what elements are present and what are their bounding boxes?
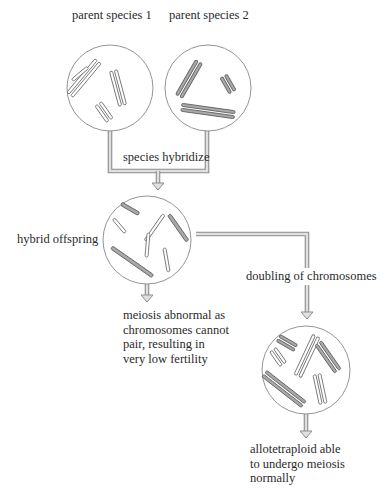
sterile-line-3: pair, resulting in	[123, 337, 229, 352]
arrow-down-icon	[152, 183, 164, 190]
hybrid-offspring-label: hybrid offspring	[17, 232, 98, 247]
arrow-down-icon	[300, 431, 312, 438]
connector-normal	[300, 414, 312, 438]
allotetraploid-line-3: normally	[250, 471, 345, 486]
diagram-canvas	[0, 0, 386, 497]
allotetraploid-cell	[262, 326, 350, 414]
arrow-down-icon	[301, 312, 313, 319]
arrow-down-icon	[141, 295, 153, 302]
allotetraploid-line-2: to undergo meiosis	[250, 457, 345, 472]
connector-sterile	[141, 282, 153, 302]
parent-species-2-cell	[165, 45, 251, 131]
parent-species-1-cell	[67, 45, 153, 131]
parent-species-2-label: parent species 2	[169, 8, 249, 23]
allotetraploid-line-1: allotetraploid able	[250, 442, 345, 457]
parent-species-1-label: parent species 1	[72, 8, 152, 23]
allotetraploid-outcome-text: allotetraploid able to undergo meiosis n…	[250, 442, 345, 486]
sterile-line-2: chromosomes cannot	[123, 323, 229, 338]
species-hybridize-label: species hybridize	[123, 150, 209, 165]
allopolyploidy-diagram: parent species 1 parent species 2 specie…	[0, 0, 386, 497]
sterile-line-4: very low fertility	[123, 352, 229, 367]
sterile-outcome-text: meiosis abnormal as chromosomes cannot p…	[123, 308, 229, 366]
sterile-line-1: meiosis abnormal as	[123, 308, 229, 323]
doubling-of-chromosomes-label: doubling of chromosomes	[246, 269, 377, 284]
hybrid-offspring-cell	[103, 196, 191, 284]
